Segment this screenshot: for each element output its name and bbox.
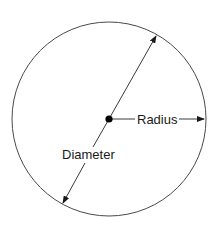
diameter-label: Diameter	[62, 147, 115, 162]
circle-diagram: Radius Diameter	[0, 0, 218, 232]
diameter-line-upper	[109, 36, 156, 119]
diameter-line-lower-b	[63, 163, 85, 203]
diameter-line-lower-a	[93, 119, 109, 147]
center-point	[105, 115, 112, 122]
radius-label: Radius	[137, 112, 178, 127]
